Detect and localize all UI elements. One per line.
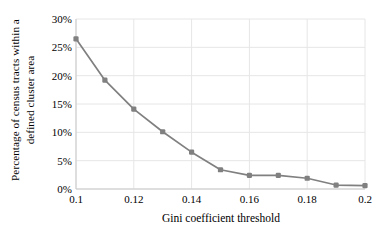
data-point-marker (73, 36, 78, 41)
data-point-marker (131, 107, 136, 112)
data-point-marker (362, 183, 367, 188)
horizontal-gridlines (76, 19, 365, 189)
chart-figure: Percentage of census tracts within a def… (0, 0, 386, 234)
data-point-marker (247, 173, 252, 178)
data-point-marker (305, 176, 310, 181)
data-point-markers (73, 36, 367, 188)
data-point-marker (334, 182, 339, 187)
data-point-marker (102, 78, 107, 83)
data-point-marker (276, 173, 281, 178)
data-point-marker (189, 150, 194, 155)
data-point-marker (160, 129, 165, 134)
plot-area (0, 0, 386, 234)
data-point-marker (218, 167, 223, 172)
data-line-series-1 (76, 39, 365, 186)
